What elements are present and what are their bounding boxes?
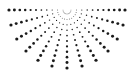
sunburst-dot [63, 12, 64, 13]
sunburst-dot [77, 49, 79, 51]
sunburst-dot [92, 35, 94, 37]
sunburst-dot [97, 27, 99, 29]
sunburst-dot [44, 31, 46, 33]
sunburst-dot [92, 54, 95, 57]
sunburst-dot [70, 12, 71, 13]
sunburst-dot [48, 40, 50, 42]
sunburst-dot [52, 9, 53, 10]
sunburst-dot [87, 45, 89, 47]
sunburst-dot [102, 9, 104, 11]
sunburst-dot [42, 50, 45, 53]
sunburst-dot [64, 19, 65, 20]
sunburst-dot [25, 20, 27, 22]
dotted-sunburst-graphic [0, 0, 135, 76]
sunburst-dot [69, 12, 70, 13]
sunburst-dot [106, 20, 108, 22]
sunburst-dot [106, 49, 109, 52]
sunburst-dot [116, 37, 119, 40]
sunburst-dot [118, 9, 121, 12]
sunburst-dot [75, 44, 77, 46]
sunburst-dot [36, 38, 38, 40]
sunburst-dot [39, 25, 41, 27]
sunburst-dot [64, 12, 65, 13]
sunburst-dot [116, 22, 119, 25]
sunburst-dot [67, 14, 68, 15]
sunburst-dot [81, 9, 82, 10]
sunburst-dot [9, 23, 12, 26]
sunburst-dot [84, 40, 86, 42]
sunburst-dot [46, 9, 47, 10]
sunburst-dot [73, 16, 74, 17]
sunburst-dot [41, 16, 43, 18]
sunburst-dot [91, 16, 93, 18]
sunburst-dot [32, 42, 35, 45]
sunburst-dot [69, 19, 70, 20]
sunburst-dot [63, 10, 64, 11]
sunburst-dot [65, 13, 66, 14]
sunburst-dot [79, 59, 82, 62]
sunburst-dot [39, 54, 42, 57]
sunburst-dot [30, 9, 32, 11]
sunburst-dot [34, 27, 36, 29]
sunburst-dot [93, 25, 95, 27]
sunburst-dot [84, 19, 85, 20]
sunburst-dot [47, 15, 48, 16]
sunburst-dot [113, 9, 116, 12]
sunburst-dot [79, 17, 80, 18]
sunburst-dot [79, 31, 81, 33]
sunburst-dot [84, 27, 86, 29]
sunburst-dot [15, 22, 18, 25]
sunburst-dot [78, 54, 81, 57]
sunburst-dot [107, 32, 110, 35]
sunburst-dot [63, 24, 64, 25]
sunburst-dot [99, 42, 102, 45]
sunburst-dot [50, 64, 53, 67]
sunburst-dot [94, 59, 97, 62]
sunburst-dot [52, 24, 53, 25]
sunburst-dot [58, 14, 59, 15]
sunburst-dot [66, 45, 68, 47]
sunburst-dot [66, 61, 69, 64]
sunburst-dot [66, 51, 68, 53]
sunburst-dot [52, 59, 55, 62]
sunburst-dot [53, 31, 55, 33]
sunburst-dot [62, 18, 63, 19]
sunburst-dot [30, 30, 32, 32]
sunburst-dot [75, 14, 76, 15]
sunburst-dot [108, 9, 110, 11]
sunburst-dot [56, 44, 58, 46]
sunburst-dot [88, 22, 90, 24]
sunburst-dot [48, 27, 50, 29]
sunburst-dot [15, 37, 18, 40]
sunburst-dot [40, 35, 42, 37]
sunburst-dot [66, 24, 67, 25]
sunburst-dot [97, 9, 99, 11]
sunburst-dot [74, 39, 76, 41]
sunburst-dot [81, 24, 82, 25]
sunburst-dot [76, 12, 77, 13]
sunburst-dot [72, 29, 73, 30]
sunburst-dot [71, 18, 72, 19]
sunburst-dot [56, 20, 57, 21]
sunburst-dot [92, 9, 94, 11]
sunburst-dot [86, 15, 87, 16]
sunburst-dot [35, 9, 37, 11]
sunburst-dot [36, 17, 38, 19]
sunburst-dot [66, 35, 68, 37]
sunburst-dot [95, 38, 97, 40]
sunburst-dot [81, 13, 82, 14]
sunburst-dot [61, 29, 62, 30]
sunburst-dot [45, 45, 47, 47]
sunburst-dot [57, 12, 58, 13]
sunburst-dot [66, 29, 67, 30]
sunburst-dot [58, 39, 60, 41]
sunburst-dot [60, 16, 61, 17]
sunburst-dot [74, 22, 75, 23]
sunburst-dot [49, 19, 50, 20]
sunburst-dot [76, 27, 77, 28]
sunburst-dot [69, 13, 70, 14]
sunburst-dot [44, 22, 46, 24]
sunburst-dot [54, 17, 55, 18]
sunburst-dot [102, 30, 104, 32]
sunburst-dot [41, 9, 43, 11]
